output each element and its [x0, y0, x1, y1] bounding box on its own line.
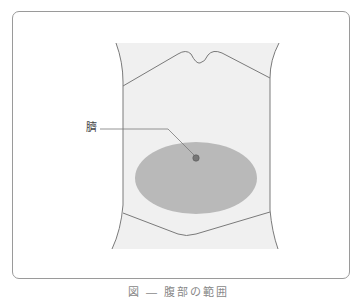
navel-label: 臍	[86, 121, 97, 135]
torso-right-contour	[270, 43, 279, 249]
torso-left-contour	[112, 43, 123, 249]
figure-caption: 図 ― 腹部の範囲	[0, 283, 357, 299]
navel-dot-icon	[193, 155, 199, 161]
application-region	[135, 142, 257, 214]
